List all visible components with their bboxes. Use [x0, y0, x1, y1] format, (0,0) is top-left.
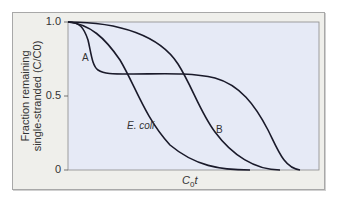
curve-label-ecoli: E. coli	[127, 120, 154, 131]
curve-label-a: A	[82, 52, 89, 63]
ytick-label-0: 0	[31, 163, 61, 175]
x-axis-label: C0t	[182, 174, 197, 189]
y-axis-label-line1: Fraction remaining	[19, 21, 31, 171]
x-axis-label-tail: t	[194, 174, 197, 186]
ytick-label-1: 1.0	[31, 15, 61, 27]
x-axis-label-main: C	[182, 174, 190, 186]
plot-area	[68, 22, 319, 170]
curve-label-b: B	[216, 124, 223, 135]
ytick-label-05: 0.5	[31, 89, 61, 101]
